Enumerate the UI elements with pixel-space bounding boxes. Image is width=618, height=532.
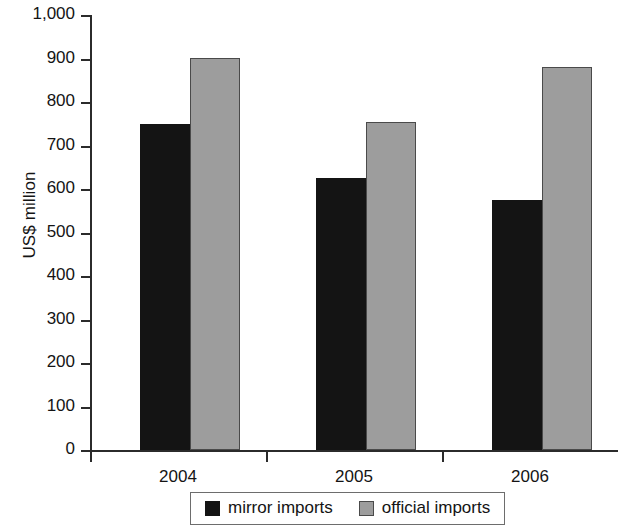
- x-axis-category-label: 2005: [266, 467, 442, 487]
- y-axis-tick: 400: [81, 276, 91, 278]
- y-axis-tick: 700: [81, 146, 91, 148]
- y-axis-tick: 800: [81, 102, 91, 104]
- y-axis-tick: 600: [81, 189, 91, 191]
- y-axis-tick: 300: [81, 320, 91, 322]
- y-axis-tick-label: 1,000: [5, 4, 75, 24]
- official-swatch-icon: [359, 501, 374, 516]
- bar-official-imports-2004: [190, 58, 240, 450]
- y-axis-tick: 200: [81, 363, 91, 365]
- y-axis-tick-label: 200: [5, 352, 75, 372]
- x-axis-separator-tick: [90, 452, 92, 462]
- legend-label: official imports: [382, 498, 490, 518]
- legend-entry: official imports: [359, 498, 490, 518]
- legend-label: mirror imports: [228, 498, 333, 518]
- y-axis-tick-label: 300: [5, 309, 75, 329]
- bar-official-imports-2005: [366, 122, 416, 450]
- bar-mirror-imports-2006: [492, 200, 542, 450]
- y-axis-tick-label: 500: [5, 222, 75, 242]
- mirror-swatch-icon: [205, 501, 220, 516]
- y-axis-tick-label: 400: [5, 265, 75, 285]
- y-axis-tick-label: 100: [5, 396, 75, 416]
- bar-official-imports-2006: [542, 67, 592, 450]
- bar-mirror-imports-2004: [140, 124, 190, 450]
- y-axis-tick-label: 800: [5, 91, 75, 111]
- x-axis-line: [90, 450, 618, 452]
- bar-mirror-imports-2005: [316, 178, 366, 450]
- plot-area: 01002003004005006007008009001,000 200420…: [90, 15, 618, 451]
- y-axis-tick: 100: [81, 407, 91, 409]
- y-axis-tick: 900: [81, 59, 91, 61]
- chart-legend: mirror importsofficial imports: [190, 492, 505, 525]
- y-axis-tick-label: 700: [5, 135, 75, 155]
- x-axis-separator-tick: [442, 452, 444, 462]
- y-axis-tick-label: 900: [5, 48, 75, 68]
- x-axis-separator-tick: [266, 452, 268, 462]
- y-axis-tick-label: 600: [5, 178, 75, 198]
- y-axis-tick: 1,000: [81, 15, 91, 17]
- bar-chart: US$ million 0100200300400500600700800900…: [0, 0, 618, 532]
- y-axis-tick-label: 0: [5, 439, 75, 459]
- x-axis-category-label: 2004: [90, 467, 266, 487]
- legend-entry: mirror imports: [205, 498, 333, 518]
- x-axis-category-label: 2006: [442, 467, 618, 487]
- y-axis-tick: 500: [81, 233, 91, 235]
